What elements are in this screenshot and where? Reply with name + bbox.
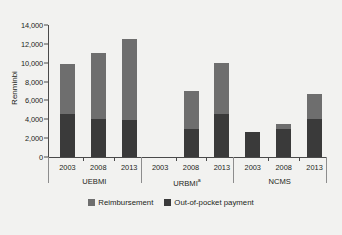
group-label-urbmi: URBMIa: [173, 177, 200, 188]
y-tick-label: 0: [0, 153, 43, 162]
x-tick-label: 2013: [121, 163, 137, 172]
y-tick-mark: [44, 119, 48, 120]
bar-stack: [91, 53, 106, 157]
clipped-caption-strip: [0, 0, 342, 6]
bar-stack: [184, 91, 199, 157]
x-tick-label: 2013: [306, 163, 322, 172]
legend-label-reimbursement: Reimbursement: [98, 198, 153, 207]
group-label-ncms: NCMS: [268, 177, 290, 186]
x-tick-label: 2008: [90, 163, 106, 172]
x-tick-label: 2003: [59, 163, 75, 172]
y-tick-mark: [44, 62, 48, 63]
x-tick-mark: [176, 157, 177, 161]
x-tick-mark: [299, 157, 300, 161]
bar-segment-reimbursement: [214, 63, 229, 114]
bar-segment-out-of-pocket: [122, 120, 137, 157]
bar-segment-reimbursement: [122, 39, 137, 120]
bar-segment-out-of-pocket: [307, 119, 322, 157]
y-tick-label: 8,000: [0, 77, 43, 86]
y-tick-label: 6,000: [0, 96, 43, 105]
bar-segment-reimbursement: [91, 53, 106, 119]
group-separator: [141, 157, 142, 183]
legend-item-out-of-pocket: Out-of-pocket payment: [164, 198, 253, 207]
x-tick-mark: [268, 157, 269, 161]
group-separator: [233, 157, 234, 183]
x-axis-line: [48, 157, 327, 158]
bar-segment-out-of-pocket: [60, 114, 75, 157]
bar-stack: [276, 124, 291, 157]
bar-segment-out-of-pocket: [214, 114, 229, 157]
group-label-uebmi: UEBMI: [82, 177, 106, 186]
x-tick-label: 2008: [183, 163, 199, 172]
group-separator-edge: [48, 157, 49, 183]
group-label-superscript: a: [198, 177, 201, 183]
plot-area: [48, 25, 326, 157]
x-tick-mark: [206, 157, 207, 161]
bar-segment-reimbursement: [60, 64, 75, 114]
bar-segment-out-of-pocket: [184, 129, 199, 157]
bar-segment-out-of-pocket: [245, 132, 260, 157]
y-tick-label: 14,000: [0, 21, 43, 30]
y-tick-label: 4,000: [0, 115, 43, 124]
bar-stack: [214, 63, 229, 157]
bar-segment-out-of-pocket: [91, 119, 106, 157]
x-tick-label: 2008: [275, 163, 291, 172]
bar-stack: [307, 94, 322, 157]
y-tick-label: 12,000: [0, 39, 43, 48]
x-tick-label: 2003: [152, 163, 168, 172]
x-tick-mark: [83, 157, 84, 161]
y-tick-label: 10,000: [0, 58, 43, 67]
x-tick-label: 2003: [245, 163, 261, 172]
group-separator-edge: [326, 157, 327, 183]
y-tick-mark: [44, 43, 48, 44]
x-tick-label: 2013: [214, 163, 230, 172]
y-tick-mark: [44, 25, 48, 26]
y-tick-mark: [44, 100, 48, 101]
bar-segment-reimbursement: [307, 94, 322, 119]
y-tick-mark: [44, 81, 48, 82]
legend-swatch-reimbursement: [88, 199, 95, 206]
bar-chart: Renminbi 02,0004,0006,0008,00010,00012,0…: [0, 0, 342, 235]
bar-segment-out-of-pocket: [276, 129, 291, 157]
bar-stack: [60, 64, 75, 157]
y-tick-mark: [44, 138, 48, 139]
chart-legend: Reimbursement Out-of-pocket payment: [0, 198, 342, 207]
legend-item-reimbursement: Reimbursement: [88, 198, 153, 207]
bar-stack: [122, 39, 137, 157]
bar-segment-reimbursement: [184, 91, 199, 129]
x-tick-mark: [114, 157, 115, 161]
legend-label-out-of-pocket: Out-of-pocket payment: [174, 198, 253, 207]
bar-stack: [245, 132, 260, 157]
legend-swatch-out-of-pocket: [164, 199, 171, 206]
y-tick-label: 2,000: [0, 134, 43, 143]
